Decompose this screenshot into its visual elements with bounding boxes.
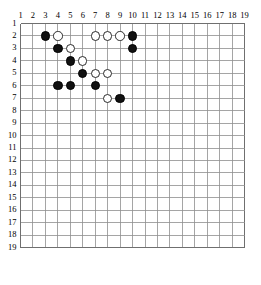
board-grid [0,0,261,285]
white-stone[interactable] [53,31,62,40]
black-stone[interactable] [66,56,75,65]
white-stone[interactable] [103,31,112,40]
white-stone[interactable] [91,69,100,78]
black-stone[interactable] [53,44,62,53]
go-board-diagram: 12345678910111213141516171819 1234567891… [0,0,261,285]
white-stone[interactable] [115,31,124,40]
white-stone[interactable] [91,31,100,40]
black-stone[interactable] [53,81,62,90]
white-stone[interactable] [78,56,87,65]
white-stone[interactable] [66,44,75,53]
black-stone[interactable] [128,31,137,40]
black-stone[interactable] [41,31,50,40]
black-stone[interactable] [115,94,124,103]
